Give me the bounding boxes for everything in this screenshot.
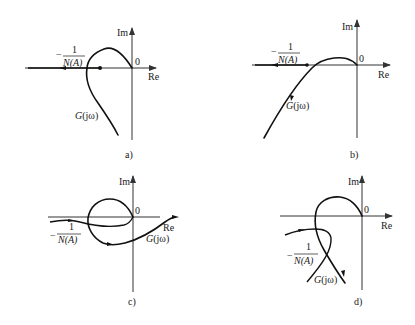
svg-text:1: 1 (72, 44, 77, 55)
g-jw-curve (315, 197, 362, 283)
origin-label: 0 (135, 56, 140, 67)
intersection-point (98, 66, 102, 70)
svg-text:1: 1 (69, 221, 74, 232)
direction-arrow-icon (271, 63, 278, 67)
im-label: Im (117, 27, 128, 38)
neg-inv-n-label: − 1 N(A) (271, 41, 300, 66)
re-label: Re (381, 220, 393, 231)
svg-text:N(A): N(A) (57, 234, 78, 246)
g-jw-curve (264, 58, 357, 138)
svg-text:N(A): N(A) (277, 54, 298, 66)
svg-text:−: − (271, 46, 277, 57)
origin-label: 0 (359, 53, 364, 64)
intersection-point (305, 63, 309, 67)
svg-text:1: 1 (306, 241, 311, 252)
neg-inv-n-label: − 1 N(A) (50, 221, 81, 246)
panel-caption: c) (128, 296, 136, 308)
svg-text:1: 1 (288, 41, 293, 52)
svg-text:−: − (50, 230, 56, 241)
re-label: Re (163, 222, 175, 233)
im-label: Im (348, 176, 359, 187)
svg-text:N(A): N(A) (62, 57, 83, 69)
panel-caption: b) (350, 149, 358, 161)
g-jw-label: G(jω) (286, 100, 309, 112)
origin-label: 0 (364, 204, 369, 215)
im-label: Im (119, 176, 130, 187)
svg-text:−: − (287, 250, 293, 261)
figure-canvas: Im 0 Re − 1 N(A) G(jω) a) Im 0 Re − 1 (0, 0, 415, 325)
svg-text:N(A): N(A) (293, 255, 314, 267)
panel-c: Im 0 Re − 1 N(A) G(jω) c) (48, 176, 179, 308)
re-label: Re (378, 69, 390, 80)
direction-arrow-icon (341, 270, 345, 277)
g-jw-label: G(jω) (75, 110, 98, 122)
neg-inv-n-label: − 1 N(A) (56, 44, 85, 69)
panel-a: Im 0 Re − 1 N(A) G(jω) a) (25, 27, 160, 161)
neg-inv-n-locus (50, 217, 133, 226)
panel-caption: a) (125, 149, 133, 161)
g-jw-curve (87, 48, 132, 135)
im-label: Im (342, 21, 353, 32)
neg-inv-n-label: − 1 N(A) (287, 241, 318, 267)
g-jw-label: G(jω) (146, 233, 169, 245)
re-label: Re (148, 71, 160, 82)
panel-d: Im 0 Re − 1 N(A) G(jω) d) (280, 176, 393, 308)
panel-b: Im 0 Re − 1 N(A) G(jω) b) (252, 20, 390, 161)
panel-caption: d) (354, 296, 362, 308)
svg-text:−: − (56, 49, 62, 60)
g-jw-label: G(jω) (314, 274, 337, 286)
direction-arrow-icon (172, 215, 179, 219)
origin-label: 0 (135, 205, 140, 216)
